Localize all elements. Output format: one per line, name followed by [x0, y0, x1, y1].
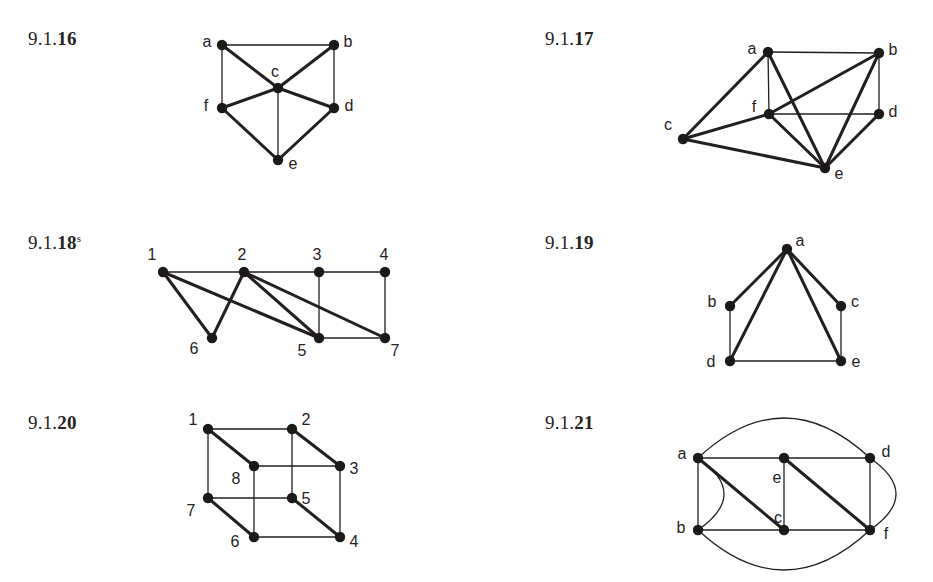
- graph-vertex-b: [693, 525, 703, 535]
- graph-vertex-label-a: a: [678, 445, 687, 462]
- figure-sheet: 9.1.16abcfde9.1.17abcfde9.1.18s12346579.…: [0, 0, 933, 582]
- graph-vertex-c: [779, 525, 789, 535]
- graph-vertex-label-c: c: [774, 509, 782, 526]
- graph-vertex-label-f: f: [884, 525, 889, 542]
- graph-edge-curved-b-f: [698, 530, 870, 570]
- fig-9-1-21: 9.1.21aedbcf: [0, 0, 933, 582]
- graph-vertex-a: [693, 453, 703, 463]
- graph-vertex-e: [779, 453, 789, 463]
- graph-vertex-d: [865, 453, 875, 463]
- fig-9-1-21-graph: aedbcf: [0, 0, 933, 582]
- graph-edge-e-f: [784, 458, 870, 530]
- graph-edge-curved-d-f: [870, 458, 896, 530]
- graph-vertex-label-d: d: [882, 443, 891, 460]
- graph-vertex-label-b: b: [677, 519, 686, 536]
- graph-vertex-f: [865, 525, 875, 535]
- graph-edge-curved-a-d: [698, 418, 870, 458]
- graph-vertex-label-e: e: [773, 469, 782, 486]
